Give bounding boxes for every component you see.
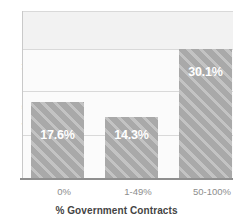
- x-axis-line: [20, 178, 233, 180]
- bar-0-percent[interactable]: 17.6%: [31, 102, 84, 178]
- bar-50-100-percent[interactable]: 30.1%: [179, 49, 232, 178]
- plot-area: 17.6% 14.3% 30.1%: [22, 11, 233, 179]
- bar-1-49-percent[interactable]: 14.3%: [105, 117, 158, 178]
- bar-chart-figure: % of Online Recruiting 17.6% 14.3% 30.1%…: [0, 0, 233, 224]
- plot-upper-band: [22, 11, 233, 49]
- bar-value-label: 17.6%: [31, 128, 84, 142]
- x-tick-label-2: 50-100%: [170, 186, 233, 197]
- x-tick-label-1: 1-49%: [96, 186, 180, 197]
- bar-value-label: 14.3%: [105, 128, 158, 142]
- gridline-40: [22, 11, 233, 12]
- bar-value-label: 30.1%: [179, 65, 232, 79]
- x-axis-title: % Government Contracts: [0, 205, 233, 216]
- x-tick-label-0: 0%: [22, 186, 106, 197]
- y-axis-line: [22, 11, 23, 179]
